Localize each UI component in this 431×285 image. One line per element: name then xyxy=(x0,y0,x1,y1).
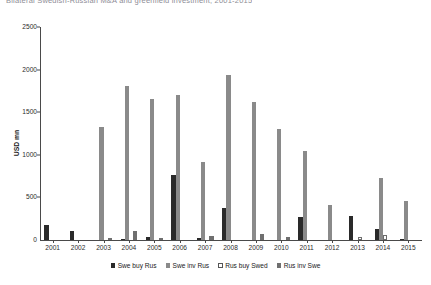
bar-group-container xyxy=(40,27,421,240)
legend-swatch-icon xyxy=(166,263,171,268)
x-tick-mark xyxy=(154,240,155,243)
bar xyxy=(303,151,307,240)
bar xyxy=(286,237,290,240)
legend-label: Rus buy Swed xyxy=(225,262,268,269)
x-tick-label: 2002 xyxy=(71,244,86,251)
y-axis-label: USD mn xyxy=(13,129,20,155)
bar-group xyxy=(91,27,116,240)
x-tick-mark xyxy=(231,240,232,243)
x-tick-label: 2010 xyxy=(274,244,289,251)
legend-item[interactable]: Swe inv Rus xyxy=(166,262,210,269)
bar xyxy=(159,238,163,240)
x-tick-mark xyxy=(205,240,206,243)
legend-item[interactable]: Rus inv Swe xyxy=(277,262,321,269)
bar xyxy=(99,127,103,240)
bar xyxy=(277,129,281,240)
x-tick-mark xyxy=(332,240,333,243)
x-tick-mark xyxy=(129,240,130,243)
x-tick-label: 2004 xyxy=(122,244,137,251)
x-tick-label: 2003 xyxy=(96,244,111,251)
bar xyxy=(379,178,383,240)
x-tick-label: 2008 xyxy=(223,244,238,251)
bar-group xyxy=(294,27,319,240)
x-tick-label: 2006 xyxy=(172,244,187,251)
bar xyxy=(252,102,256,240)
legend-swatch-icon xyxy=(277,263,282,268)
y-tick-label: 0 xyxy=(33,237,37,244)
plot-area: 05001000150020002500 xyxy=(40,27,421,240)
x-tick-label: 2013 xyxy=(350,244,365,251)
x-tick-mark xyxy=(358,240,359,243)
chart-title: Bilateral Swedish-Russian M&A and greenf… xyxy=(6,0,252,5)
bar xyxy=(349,216,353,240)
x-tick-mark xyxy=(53,240,54,243)
x-tick-label: 2007 xyxy=(198,244,213,251)
bar xyxy=(328,205,332,240)
chart-figure: Bilateral Swedish-Russian M&A and greenf… xyxy=(0,0,431,285)
legend-item[interactable]: Swe buy Rus xyxy=(111,262,157,269)
bar xyxy=(44,225,48,240)
bar-group xyxy=(243,27,268,240)
x-tick-mark xyxy=(408,240,409,243)
bar-group xyxy=(192,27,217,240)
x-tick-label: 2009 xyxy=(249,244,264,251)
x-tick-mark xyxy=(180,240,181,243)
x-tick-mark xyxy=(281,240,282,243)
y-tick-label: 500 xyxy=(26,194,37,201)
legend-swatch-icon xyxy=(111,263,116,268)
bar xyxy=(176,95,180,240)
y-tick-label: 1000 xyxy=(22,152,37,159)
x-tick-mark xyxy=(256,240,257,243)
legend-label: Swe inv Rus xyxy=(173,262,210,269)
legend-item[interactable]: Rus buy Swed xyxy=(218,262,268,269)
bar xyxy=(201,162,205,240)
bar xyxy=(226,75,230,240)
bar xyxy=(209,236,213,240)
bar xyxy=(133,231,137,240)
bar xyxy=(70,231,74,240)
x-tick-mark xyxy=(78,240,79,243)
x-tick-label: 2005 xyxy=(147,244,162,251)
x-tick-label: 2001 xyxy=(45,244,60,251)
x-tick-mark xyxy=(104,240,105,243)
x-tick-label: 2015 xyxy=(401,244,416,251)
chart-legend: Swe buy RusSwe inv RusRus buy SwedRus in… xyxy=(0,262,431,269)
bar xyxy=(125,86,129,240)
bar xyxy=(150,99,154,240)
legend-label: Swe buy Rus xyxy=(118,262,157,269)
y-tick-label: 1500 xyxy=(22,109,37,116)
bar-group xyxy=(218,27,243,240)
bar-group xyxy=(40,27,65,240)
x-tick-mark xyxy=(383,240,384,243)
bar-group xyxy=(116,27,141,240)
x-tick-label: 2014 xyxy=(376,244,391,251)
legend-swatch-icon xyxy=(218,263,223,268)
x-tick-label: 2011 xyxy=(300,244,314,251)
bar-group xyxy=(142,27,167,240)
legend-label: Rus inv Swe xyxy=(284,262,321,269)
bar xyxy=(108,238,112,240)
bar xyxy=(260,234,264,240)
bar-group xyxy=(396,27,421,240)
bar-group xyxy=(65,27,90,240)
bar-group xyxy=(370,27,395,240)
bar-group xyxy=(319,27,344,240)
bar-group xyxy=(167,27,192,240)
x-tick-label: 2012 xyxy=(325,244,340,251)
y-tick-label: 2500 xyxy=(22,24,37,31)
x-tick-mark xyxy=(307,240,308,243)
bar-group xyxy=(269,27,294,240)
bar xyxy=(404,201,408,240)
bar-group xyxy=(345,27,370,240)
y-tick-label: 2000 xyxy=(22,66,37,73)
